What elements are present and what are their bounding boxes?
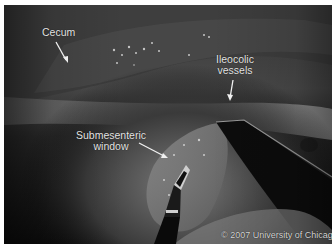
vessels-text: vessels — [216, 65, 254, 76]
cecum-text: Cecum — [42, 26, 75, 38]
ileocolic-vessels-label: Ileocolic vessels — [216, 54, 254, 76]
window-text: window — [76, 141, 146, 152]
submesenteric-window-label: Submesenteric window — [76, 130, 146, 152]
photo-scene — [4, 5, 332, 244]
laparoscopic-photo: Cecum Ileocolic vessels Submesenteric wi… — [4, 5, 332, 244]
copyright-notice: © 2007 University of Chicago — [221, 230, 332, 240]
cecum-label: Cecum — [42, 27, 75, 38]
